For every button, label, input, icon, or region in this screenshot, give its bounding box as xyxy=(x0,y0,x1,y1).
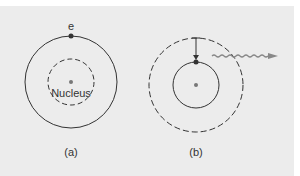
caption-b: (b) xyxy=(189,146,202,158)
photon-arrow-icon xyxy=(268,53,278,59)
caption-a: (a) xyxy=(64,146,77,158)
atom-diagram: e Nucleus (a) (b) xyxy=(0,0,300,176)
electron-dot xyxy=(69,34,74,39)
electron-label: e xyxy=(68,20,74,32)
electron-dot xyxy=(194,60,199,65)
panel-a: e Nucleus (a) xyxy=(25,20,117,158)
nucleus-dot xyxy=(194,83,198,87)
arrow-head-icon xyxy=(193,55,199,60)
nucleus-label: Nucleus xyxy=(51,87,91,99)
panel-b: (b) xyxy=(149,38,278,158)
nucleus-dot xyxy=(69,80,73,84)
photon-wave xyxy=(212,55,268,57)
